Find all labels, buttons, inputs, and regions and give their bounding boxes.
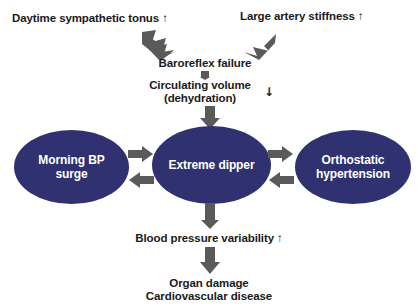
node-morning-bp-surge[interactable]: Morning BP surge (14, 130, 129, 204)
node-orthostatic-hypertension[interactable]: Orthostatic hypertension (295, 130, 411, 204)
arrow-morning-bp-surge-to-extreme-dipper (128, 146, 154, 163)
node-large-artery-stiffness: Large artery stiffness ↑ (240, 10, 364, 23)
node-outcome-line1: Organ damage (169, 277, 248, 290)
arrow-extreme-dipper-to-bp-variability (200, 203, 220, 229)
arrow-extreme-dipper-to-morning-bp-surge (128, 172, 154, 189)
node-baroreflex-failure: Baroreflex failure (159, 57, 252, 70)
node-circulating-volume-line2: (dehydration) (164, 92, 236, 105)
diagram-canvas: Daytime sympathetic tonus ↑ Large artery… (0, 0, 418, 306)
arrow-orthostatic-to-extreme-dipper (268, 172, 294, 189)
node-extreme-dipper-label: Extreme dipper (169, 158, 255, 172)
arrow-bp-variability-to-outcome (199, 247, 221, 275)
node-blood-pressure-variability: Blood pressure variability ↑ (135, 232, 282, 245)
node-daytime-sympathetic-tonus: Daytime sympathetic tonus ↑ (12, 12, 168, 25)
node-orthostatic-hypertension-label: Orthostatic hypertension (316, 153, 390, 181)
node-circulating-volume-line1: Circulating volume (149, 79, 251, 92)
node-morning-bp-surge-label: Morning BP surge (38, 153, 104, 181)
node-extreme-dipper[interactable]: Extreme dipper (152, 126, 271, 204)
node-circulating-volume-down-marker: ↓ (264, 86, 274, 99)
arrow-extreme-dipper-to-orthostatic (268, 146, 294, 163)
node-outcome-line2: Cardiovascular disease (146, 290, 272, 303)
